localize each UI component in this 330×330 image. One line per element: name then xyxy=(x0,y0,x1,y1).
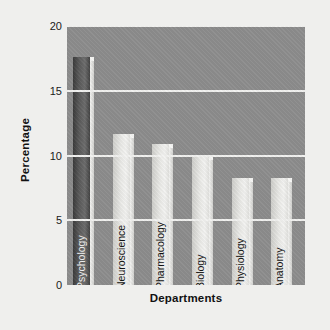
gridline-10 xyxy=(67,155,305,157)
gridline-15 xyxy=(67,90,305,92)
x-axis-title: Departments xyxy=(67,292,305,304)
y-tick-5: 5 xyxy=(32,215,62,225)
bar-bevel-edge xyxy=(169,144,173,285)
category-label-biology: Biology xyxy=(195,255,205,285)
bar-bevel-cap xyxy=(90,57,94,61)
y-tick-20: 20 xyxy=(32,21,62,31)
bar-bevel-cap xyxy=(169,144,173,148)
bar-bevel-edge xyxy=(288,178,292,285)
plot-area: PsychologyNeurosciencePharmacologyBiolog… xyxy=(67,26,305,285)
y-tick-0: 0 xyxy=(32,280,62,290)
bar-bevel-cap xyxy=(130,134,134,138)
gridline-5 xyxy=(67,219,305,221)
bar-bevel-edge xyxy=(249,178,253,285)
category-label-psychology: Psychology xyxy=(76,235,86,285)
category-label-neuroscience: Neuroscience xyxy=(116,225,126,285)
y-tick-10: 10 xyxy=(32,151,62,161)
category-label-anatomy: Anatomy xyxy=(274,248,284,285)
category-label-pharmacology: Pharmacology xyxy=(155,222,165,285)
y-tick-15: 15 xyxy=(32,86,62,96)
bar-bevel-cap xyxy=(288,178,292,182)
category-label-physiology: Physiology xyxy=(235,238,245,285)
bar-chart-figure: Percentage 05101520 PsychologyNeuroscien… xyxy=(0,0,330,330)
bar-bevel-cap xyxy=(249,178,253,182)
gridline-20 xyxy=(67,26,305,27)
